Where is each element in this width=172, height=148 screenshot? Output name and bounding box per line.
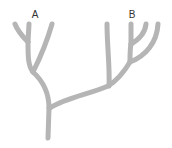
left-subclade-stem: [28, 42, 33, 72]
left-tip-middle: [28, 24, 29, 42]
tip-label-a: A: [32, 10, 39, 20]
middle-tip: [107, 24, 109, 86]
left-clade-stem: [33, 72, 49, 108]
root-trunk: [48, 108, 49, 138]
main-branch: [50, 62, 130, 108]
tip-label-b: B: [129, 10, 136, 20]
left-tip-right: [33, 24, 52, 72]
tree-graphic: [0, 0, 172, 148]
